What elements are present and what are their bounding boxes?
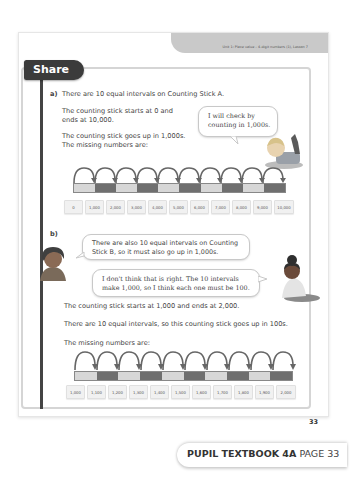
number-label: 1,100: [87, 385, 106, 399]
number-label: 8,000: [232, 200, 251, 214]
number-label: 1,400: [150, 385, 169, 399]
number-label: 9,000: [253, 200, 272, 214]
number-labels-b: 1,000 1,100 1,200 1,300 1,400 1,500 1,60…: [66, 385, 296, 399]
number-label: 6,000: [190, 200, 209, 214]
part-a-text-2b: The missing numbers are:: [62, 141, 148, 150]
bubble-a-line-1: I will check by: [208, 112, 277, 121]
stick-segment: [270, 372, 292, 380]
stick-segment: [222, 184, 243, 192]
stick-segment: [184, 372, 206, 380]
stick-segment: [179, 184, 200, 192]
part-b-text-3: The missing numbers are:: [64, 339, 150, 348]
child-character-icon: [272, 254, 322, 304]
speech-bubble-b1: There are also 10 equal intervals on Cou…: [82, 234, 250, 260]
number-label: 1,000: [85, 200, 104, 214]
stick-segment: [227, 372, 249, 380]
bubble-tail-icon: [258, 276, 268, 284]
part-b-text-1: The counting stick starts at 1,000 and e…: [64, 302, 239, 311]
stick-segment: [75, 372, 97, 380]
number-label: 0: [64, 200, 83, 214]
counting-stick-b: [74, 371, 293, 381]
number-label: 1,000: [66, 385, 85, 399]
counting-stick-a: [73, 183, 286, 193]
part-a-text-1a: The counting stick starts at 0 and: [62, 107, 173, 116]
speech-bubble-b2: I don't think that is right. The 10 inte…: [92, 269, 260, 297]
section-title: Share: [24, 60, 84, 80]
child-character-icon: [36, 245, 70, 283]
number-label: 1,300: [129, 385, 148, 399]
child-character-icon: [262, 132, 304, 170]
number-labels-a: 0 1,000 2,000 3,000 4,000 5,000 6,000 7,…: [64, 200, 294, 214]
number-label: 1,500: [171, 385, 190, 399]
bubble-b1-line-2: Stick B, so it must also go up in 1,000s…: [92, 248, 249, 257]
part-a-marker: a): [50, 90, 57, 99]
part-a-text-2a: The counting stick goes up in 1,000s.: [62, 132, 185, 141]
stick-segment: [158, 184, 179, 192]
page-number: 33: [309, 418, 318, 426]
part-a-text-1b: ends at 10,000.: [62, 116, 114, 125]
counting-arcs-a: [72, 166, 304, 184]
number-label: 4,000: [148, 200, 167, 214]
stick-segment: [140, 372, 162, 380]
footer-book-title: PUPIL TEXTBOOK 4A: [187, 448, 296, 459]
number-label: 5,000: [169, 200, 188, 214]
bubble-b2-line-2: make 1,000, so I think each one must be …: [102, 284, 259, 293]
number-label: 10,000: [274, 200, 294, 214]
stick-segment: [97, 372, 119, 380]
stick-segment: [201, 184, 222, 192]
number-label: 2,000: [276, 385, 296, 399]
bubble-a-line-2: counting in 1,000s.: [208, 121, 277, 130]
part-b-marker: b): [50, 230, 58, 239]
footer-banner: PUPIL TEXTBOOK 4A PAGE 33: [177, 443, 347, 467]
stick-segment: [74, 184, 95, 192]
bubble-tail-icon: [230, 136, 240, 146]
stick-segment: [205, 372, 227, 380]
stick-segment: [264, 184, 285, 192]
number-label: 2,000: [106, 200, 125, 214]
stick-segment: [118, 372, 140, 380]
counting-arcs-b: [73, 349, 305, 371]
unit-header: Unit 1: Place value – 4-digit numbers (1…: [171, 33, 328, 53]
number-label: 1,900: [255, 385, 274, 399]
stick-segment: [116, 184, 137, 192]
number-label: 1,200: [108, 385, 127, 399]
part-a-intro: There are 10 equal intervals on Counting…: [62, 90, 224, 99]
stick-segment: [95, 184, 116, 192]
number-label: 1,600: [192, 385, 211, 399]
bubble-b2-line-1: I don't think that is right. The 10 inte…: [102, 275, 259, 284]
number-label: 3,000: [127, 200, 146, 214]
stick-segment: [249, 372, 271, 380]
part-b-text-2: There are 10 equal intervals, so this co…: [64, 320, 288, 329]
footer-page: PAGE 33: [299, 448, 339, 459]
number-label: 1,700: [213, 385, 232, 399]
bubble-b1-line-1: There are also 10 equal intervals on Cou…: [92, 239, 249, 248]
number-label: 7,000: [211, 200, 230, 214]
bubble-tail-icon: [76, 252, 85, 260]
stick-segment: [243, 184, 264, 192]
stick-segment: [137, 184, 158, 192]
stick-segment: [162, 372, 184, 380]
number-label: 1,800: [234, 385, 253, 399]
